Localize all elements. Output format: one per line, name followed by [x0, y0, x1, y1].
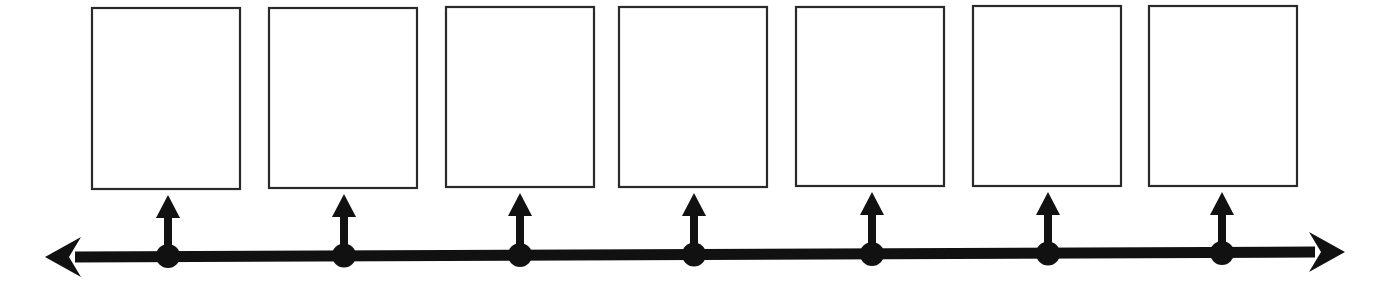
arrow-up-icon	[1036, 192, 1060, 215]
event-marker-7	[1210, 192, 1234, 265]
timeline-dot-icon	[682, 243, 706, 267]
event-marker-6	[1036, 192, 1060, 266]
event-box-5	[796, 7, 944, 186]
event-boxes	[92, 6, 1297, 189]
arrow-up-icon	[332, 194, 356, 217]
timeline-diagram	[0, 0, 1375, 292]
event-box-2	[269, 8, 417, 188]
timeline-dot-icon	[860, 242, 884, 266]
arrow-up-icon	[508, 193, 532, 216]
timeline-dot-icon	[1210, 241, 1234, 265]
timeline-dot-icon	[508, 243, 532, 267]
arrow-up-icon	[156, 195, 180, 218]
timeline-dot-icon	[1036, 242, 1060, 266]
arrow-up-icon	[860, 192, 884, 215]
event-marker-1	[156, 195, 180, 268]
event-marker-5	[860, 192, 884, 266]
event-marker-4	[682, 193, 706, 267]
event-box-3	[446, 7, 594, 187]
event-box-1	[92, 8, 240, 189]
timeline-dot-icon	[332, 244, 356, 268]
arrow-up-icon	[682, 193, 706, 216]
arrow-up-icon	[1210, 192, 1234, 215]
event-box-6	[973, 6, 1121, 186]
event-box-4	[619, 7, 767, 187]
event-marker-2	[332, 194, 356, 268]
event-marker-3	[508, 193, 532, 267]
timeline-dot-icon	[156, 244, 180, 268]
event-box-7	[1149, 6, 1297, 186]
